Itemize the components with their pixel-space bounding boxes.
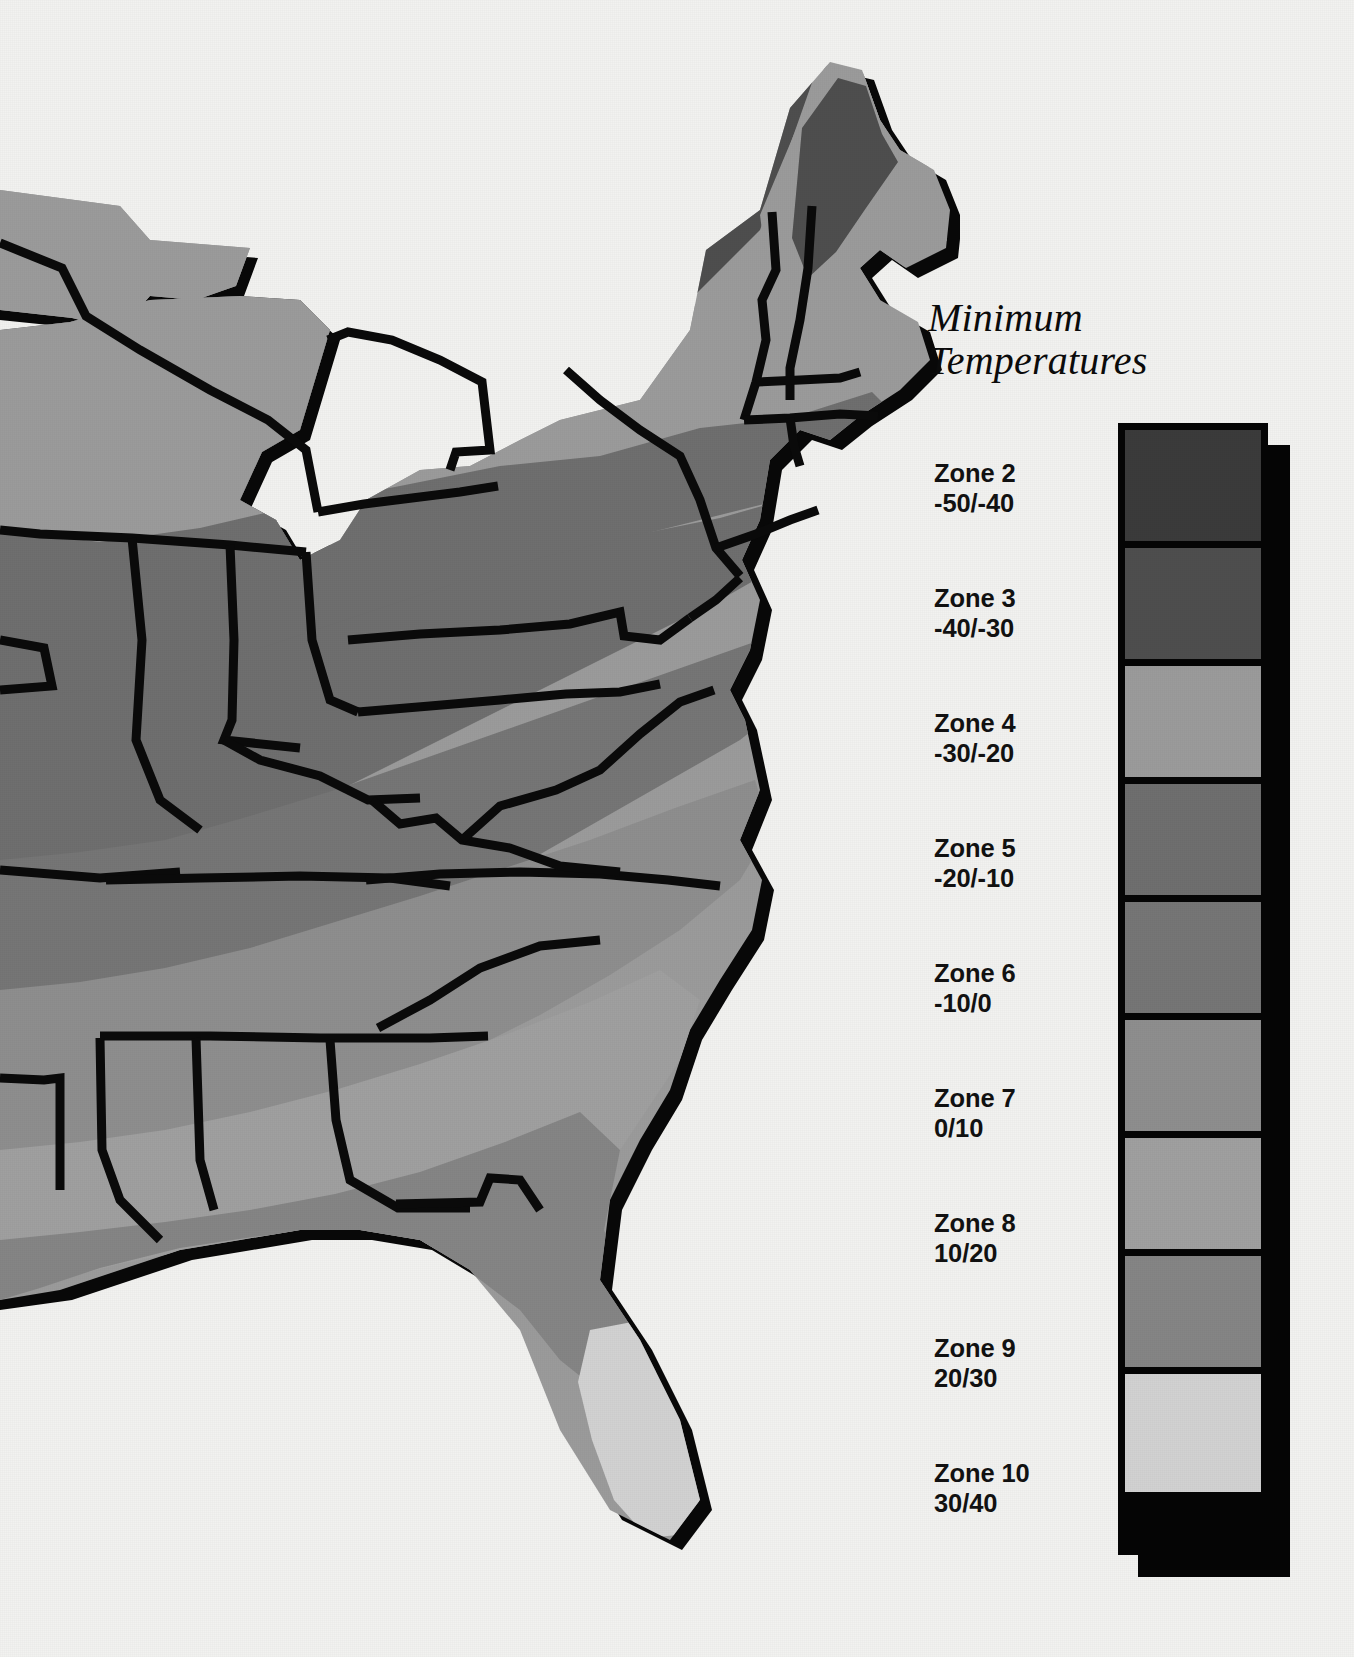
legend-zone-range: 30/40 (934, 1488, 1109, 1518)
legend-zone-range: 0/10 (934, 1113, 1109, 1143)
legend-zone-range: -40/-30 (934, 613, 1109, 643)
boundary-lakes-edge (328, 332, 490, 470)
legend-zone-name: Zone 2 (934, 458, 1109, 488)
legend-label-zone-4: Zone 4-30/-20 (934, 708, 1109, 768)
hardiness-zone-map (0, 0, 960, 1657)
legend-zone-range: 20/30 (934, 1363, 1109, 1393)
legend-label-zone-6: Zone 6-10/0 (934, 958, 1109, 1018)
legend-title-line-2: Temperatures (928, 339, 1328, 382)
legend-title-line-1: Minimum (928, 296, 1328, 339)
legend-zone-name: Zone 7 (934, 1083, 1109, 1113)
legend-swatch-zone-4[interactable] (1125, 666, 1261, 784)
boundary-tn-al (100, 1036, 488, 1038)
map-page: Minimum Temperatures Zone 2-50/-40Zone 3… (0, 0, 1354, 1657)
legend-swatch-zone-7[interactable] (1125, 1020, 1261, 1138)
legend-zone-range: -30/-20 (934, 738, 1109, 768)
legend-swatch-zone-10[interactable] (1125, 1374, 1261, 1492)
legend-label-zone-9: Zone 920/30 (934, 1333, 1109, 1393)
legend-label-zone-5: Zone 5-20/-10 (934, 833, 1109, 893)
legend-zone-name: Zone 6 (934, 958, 1109, 988)
legend-zone-name: Zone 3 (934, 583, 1109, 613)
legend-zone-name: Zone 8 (934, 1208, 1109, 1238)
boundary-ma-ct (744, 414, 878, 420)
legend-zone-name: Zone 5 (934, 833, 1109, 863)
legend-zone-name: Zone 10 (934, 1458, 1109, 1488)
legend-swatch-column (1118, 423, 1268, 1555)
legend-zone-name: Zone 9 (934, 1333, 1109, 1363)
legend-zone-name: Zone 4 (934, 708, 1109, 738)
legend-swatch-zone-2[interactable] (1125, 430, 1261, 548)
legend-swatch-zone-6[interactable] (1125, 902, 1261, 1020)
legend-zone-range: 10/20 (934, 1238, 1109, 1268)
legend-swatch-zone-3[interactable] (1125, 548, 1261, 666)
legend-swatch-zone-8[interactable] (1125, 1138, 1261, 1256)
map-graphic (0, 0, 960, 1657)
legend: Zone 2-50/-40Zone 3-40/-30Zone 4-30/-20Z… (930, 423, 1330, 1548)
legend-label-zone-8: Zone 810/20 (934, 1208, 1109, 1268)
legend-title: Minimum Temperatures (928, 296, 1328, 382)
legend-label-zone-2: Zone 2-50/-40 (934, 458, 1109, 518)
legend-swatch-zone-9[interactable] (1125, 1256, 1261, 1374)
legend-zone-range: -20/-10 (934, 863, 1109, 893)
legend-zone-range: -50/-40 (934, 488, 1109, 518)
legend-zone-range: -10/0 (934, 988, 1109, 1018)
legend-swatch-zone-5[interactable] (1125, 784, 1261, 902)
legend-label-zone-10: Zone 1030/40 (934, 1458, 1109, 1518)
legend-label-zone-7: Zone 70/10 (934, 1083, 1109, 1143)
legend-label-zone-3: Zone 3-40/-30 (934, 583, 1109, 643)
